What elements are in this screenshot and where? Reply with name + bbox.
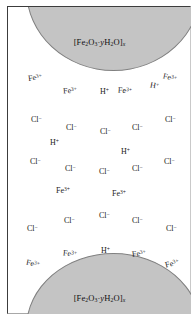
- ion-label-cl: Cl−: [132, 164, 143, 173]
- ion-charge: −: [39, 115, 42, 121]
- ion-charge: −: [73, 164, 76, 170]
- ion-charge: +: [56, 138, 59, 144]
- ion-charge: −: [173, 115, 176, 121]
- ion-label-cl: Cl−: [165, 115, 176, 124]
- ion-charge: +: [127, 147, 130, 153]
- ion-charge: +: [107, 246, 110, 252]
- ion-label-fe: Fe3+: [112, 189, 126, 198]
- ion-charge: +: [106, 87, 109, 93]
- ion-species: Cl: [64, 216, 72, 225]
- ion-charge: −: [108, 127, 111, 133]
- ion-species: Fe: [112, 189, 120, 198]
- ion-species: Cl: [132, 216, 140, 225]
- ion-label-fe: Fe3+: [63, 86, 78, 96]
- ion-species: Cl: [166, 224, 174, 233]
- ion-charge: 3+: [34, 259, 41, 266]
- oxide-bottom-formula: [Fe2O3·yH2O]x: [74, 293, 126, 303]
- ion-species: Cl: [99, 211, 107, 220]
- ion-charge: 3+: [64, 186, 70, 192]
- ion-label-cl: Cl−: [30, 157, 41, 166]
- ion-label-cl: Cl−: [27, 224, 38, 233]
- ion-label-cl: Cl−: [132, 123, 143, 132]
- ion-charge: +: [155, 81, 159, 87]
- ion-label-fe: Fe3+: [162, 71, 178, 83]
- ion-charge: −: [140, 164, 143, 170]
- ion-charge: 3+: [171, 73, 178, 80]
- ion-species: Cl: [165, 115, 173, 124]
- ion-charge: 3+: [35, 72, 42, 79]
- ion-charge: −: [140, 216, 143, 222]
- ion-charge: 3+: [120, 189, 126, 195]
- ion-charge: −: [72, 216, 75, 222]
- ion-label-fe: Fe3+: [132, 248, 147, 259]
- ion-species: Cl: [27, 224, 35, 233]
- ion-label-cl: Cl−: [99, 167, 110, 176]
- ion-charge: 3+: [126, 86, 132, 92]
- ion-label-cl: Cl−: [66, 123, 77, 132]
- ion-charge: 3+: [71, 249, 78, 256]
- ion-label-h: H+: [149, 80, 159, 90]
- formula-open: [Fe: [74, 293, 86, 303]
- ion-label-h: H+: [101, 246, 110, 255]
- ion-species: Fe: [56, 186, 64, 195]
- ion-label-cl: Cl−: [99, 211, 110, 220]
- ion-label-cl: Cl−: [132, 216, 143, 225]
- ion-label-h: H+: [50, 138, 59, 147]
- ion-label-cl: Cl−: [31, 115, 42, 124]
- ion-charge: −: [107, 167, 110, 173]
- ion-species: Cl: [100, 127, 108, 136]
- ion-label-fe: Fe3+: [27, 72, 42, 83]
- ion-label-h: H+: [100, 87, 109, 96]
- ion-label-cl: Cl−: [164, 157, 175, 166]
- formula-open: [Fe: [74, 37, 86, 47]
- ion-species: Cl: [65, 164, 73, 173]
- ion-label-cl: Cl−: [65, 164, 76, 173]
- rust-ion-diagram: [Fe2O3·yH2O]x [Fe2O3·yH2O]x Fe3+Fe3+H+Fe…: [0, 0, 195, 320]
- ion-label-h: H+: [121, 147, 130, 156]
- ion-charge: −: [38, 157, 41, 163]
- ion-label-fe: Fe3+: [164, 257, 180, 269]
- ion-charge: −: [140, 123, 143, 129]
- ion-charge: 3+: [71, 86, 77, 92]
- ion-species: Cl: [164, 157, 172, 166]
- ion-label-cl: Cl−: [166, 224, 177, 233]
- oxide-top-formula: [Fe2O3·yH2O]x: [74, 37, 126, 47]
- ion-species: Cl: [132, 123, 140, 132]
- figure-canvas: [Fe2O3·yH2O]x [Fe2O3·yH2O]x Fe3+Fe3+H+Fe…: [8, 7, 191, 314]
- ion-species: Cl: [30, 157, 38, 166]
- ion-label-cl: Cl−: [100, 127, 111, 136]
- ion-species: Cl: [31, 115, 39, 124]
- ion-label-fe: Fe3+: [63, 248, 78, 258]
- ion-label-cl: Cl−: [64, 216, 75, 225]
- formula-sub-x: x: [123, 41, 126, 47]
- ion-charge: 3+: [172, 257, 179, 264]
- ion-label-fe: Fe3+: [25, 258, 41, 270]
- ion-charge: −: [35, 224, 38, 230]
- formula-sub-x: x: [123, 297, 126, 303]
- ion-charge: −: [172, 157, 175, 163]
- ion-label-fe: Fe3+: [118, 86, 133, 96]
- ion-species: Cl: [99, 167, 107, 176]
- ion-charge: 3+: [139, 248, 146, 255]
- ion-charge: −: [174, 224, 177, 230]
- ion-charge: −: [107, 211, 110, 217]
- ion-charge: −: [74, 123, 77, 129]
- ion-label-fe: Fe3+: [56, 186, 70, 195]
- ion-species: Cl: [132, 164, 140, 173]
- ion-species: Cl: [66, 123, 74, 132]
